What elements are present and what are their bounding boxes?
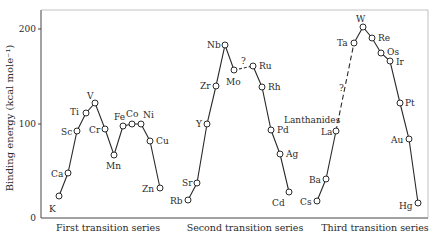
label-W: W (356, 14, 366, 24)
series-lines (59, 27, 418, 203)
binding-energy-chart: 200 100 0 Binding energy (kcal mole⁻¹) F… (0, 0, 433, 239)
label-Ca: Ca (51, 169, 64, 179)
label-Hg: Hg (399, 201, 413, 211)
label-Nb: Nb (207, 40, 221, 50)
series-label-second: Second transition series (187, 222, 304, 233)
y-tick-100: 100 (19, 119, 36, 129)
label-V: V (86, 91, 94, 101)
series-label-third: Third transition series (321, 222, 429, 233)
label-Cs: Cs (300, 197, 312, 207)
y-tick-200: 200 (19, 24, 36, 34)
label-tc-question: ? (241, 56, 246, 66)
line-third-series-b (354, 27, 418, 203)
label-Ag: Ag (285, 149, 298, 159)
y-tick-0: 0 (30, 213, 36, 223)
line-second-series-a (188, 45, 234, 200)
label-Cd: Cd (272, 198, 285, 208)
y-axis: 200 100 0 Binding energy (kcal mole⁻¹) (4, 24, 41, 223)
markers (56, 24, 421, 206)
label-Zr: Zr (200, 81, 211, 91)
label-Rh: Rh (268, 82, 281, 92)
point-labels: K Ca Sc Ti V Cr Mn Fe Co Ni Cu Zn Rb Sr … (49, 14, 415, 214)
line-third-series-a (317, 131, 336, 201)
y-axis-label: Binding energy (kcal mole⁻¹) (4, 45, 15, 192)
label-K: K (49, 204, 56, 214)
label-Sc: Sc (61, 127, 72, 137)
label-Ba: Ba (309, 175, 322, 185)
series-label-first: First transition series (56, 222, 160, 233)
label-Re: Re (378, 33, 390, 43)
label-Mn: Mn (106, 161, 121, 171)
label-Cr: Cr (89, 125, 101, 135)
label-lanthanides: Lanthanides (284, 115, 341, 125)
label-Y: Y (195, 119, 203, 129)
label-La: La (321, 127, 333, 137)
label-Os: Os (387, 47, 399, 57)
label-Pd: Pd (277, 125, 289, 135)
label-Cu: Cu (156, 136, 169, 146)
label-Ru: Ru (259, 61, 272, 71)
label-Rb: Rb (170, 196, 183, 206)
label-Mo: Mo (226, 77, 241, 87)
label-Ti: Ti (70, 107, 79, 117)
label-Ta: Ta (337, 38, 348, 48)
label-la-ta-question: ? (339, 83, 344, 93)
x-series-labels: First transition series Second transitio… (56, 222, 429, 233)
label-Zn: Zn (142, 184, 154, 194)
label-Sr: Sr (182, 178, 193, 188)
label-Fe: Fe (114, 112, 125, 122)
label-Ir: Ir (396, 57, 405, 67)
label-Co: Co (126, 109, 138, 119)
label-Ni: Ni (143, 110, 154, 120)
label-Au: Au (390, 135, 403, 145)
label-Pt: Pt (405, 98, 415, 108)
